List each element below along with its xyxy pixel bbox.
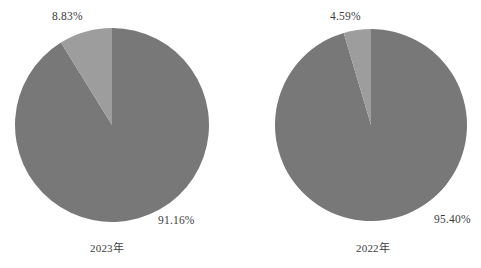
pie-label-major-2023: 91.16% <box>158 215 195 227</box>
pie-title-2023: 2023年 <box>90 243 124 254</box>
pie-label-major-2022: 95.40% <box>434 214 471 226</box>
pie-panel-2023: 8.83% 91.16% 2023年 <box>0 0 240 268</box>
pie-chart-2023 <box>0 0 240 268</box>
pie-chart-figure: 8.83% 91.16% 2023年 4.59% 95.40% 2022年 <box>0 0 481 268</box>
pie-label-minor-2023: 8.83% <box>52 11 83 23</box>
pie-label-minor-2022: 4.59% <box>330 11 361 23</box>
pie-title-2022: 2022年 <box>356 243 390 254</box>
pie-panel-2022: 4.59% 95.40% 2022年 <box>240 0 481 268</box>
pie-chart-2022 <box>240 0 481 268</box>
